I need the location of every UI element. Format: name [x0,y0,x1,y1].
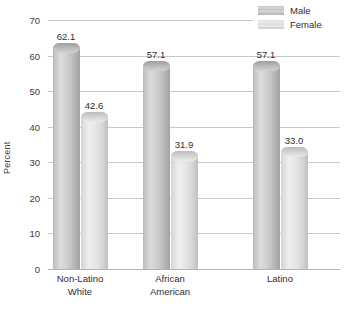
bar-male-3 [253,61,280,269]
x-axis-category-label: Non-LatinoWhite [57,272,103,298]
female-swatch [258,20,284,29]
value-label-male-3: 57.1 [257,49,276,60]
y-axis-tick-label: 20 [0,192,40,203]
x-axis-category-label: AfricanAmerican [150,272,190,298]
bar-body [171,156,198,269]
bar-chart: Percent 010203040506070 62.142.657.131.9… [0,0,350,314]
legend-item-female[interactable]: Female [258,18,322,30]
category-label-line-1: African [155,273,185,284]
legend-label: Male [290,5,311,16]
chart-legend: MaleFemale [258,4,348,32]
y-axis-tick-label: 70 [0,15,40,26]
bar-body [81,117,108,269]
category-label-line-1: Non-Latino [57,273,103,284]
bar-top-cap [253,61,280,71]
plot-area: 62.142.657.131.957.133.0 [48,20,340,269]
bar-body [281,152,308,269]
y-axis-tick-label: 10 [0,228,40,239]
y-axis-tick-labels: 010203040506070 [0,20,44,269]
y-axis-tick-label: 50 [0,86,40,97]
y-axis-tick-label: 40 [0,121,40,132]
x-axis-category-label: Latino [267,272,293,285]
bar-body [143,66,170,269]
bar-top-cap [281,147,308,157]
gridline [48,20,253,21]
bar-top-cap [53,43,80,53]
axis-baseline [48,269,340,270]
bar-top-cap [143,61,170,71]
value-label-female-3: 33.0 [285,135,304,146]
gridline [48,91,340,92]
bar-top-cap [171,151,198,161]
bar-female-2 [171,151,198,269]
bar-female-1 [81,112,108,269]
y-axis-tick-label: 60 [0,50,40,61]
bar-top-cap [81,112,108,122]
gridline [48,56,340,57]
value-label-male-2: 57.1 [147,49,166,60]
legend-item-male[interactable]: Male [258,4,311,16]
category-label-line-2: White [57,285,103,298]
bar-body [53,48,80,269]
bar-female-3 [281,147,308,269]
legend-label: Female [290,19,322,30]
category-label-line-1: Latino [267,273,293,284]
value-label-female-2: 31.9 [175,139,194,150]
bar-male-2 [143,61,170,269]
y-axis-tick-label: 30 [0,157,40,168]
value-label-male-1: 62.1 [57,31,76,42]
category-label-line-2: American [150,285,190,298]
male-swatch [258,6,284,15]
x-axis-category-labels: Non-LatinoWhiteAfricanAmericanLatino [48,272,340,312]
bar-body [253,66,280,269]
bar-male-1 [53,43,80,269]
y-axis-tick-label: 0 [0,264,40,275]
value-label-female-1: 42.6 [85,100,104,111]
